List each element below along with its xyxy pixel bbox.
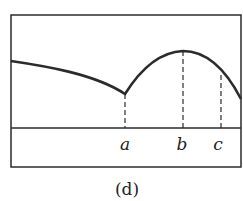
- label-a: a: [120, 134, 130, 154]
- label-b: b: [177, 134, 188, 154]
- diagram-figure: a b c (d): [0, 0, 243, 201]
- label-c: c: [213, 134, 223, 154]
- marker-lines: [125, 51, 221, 128]
- figure-caption: (d): [115, 179, 139, 199]
- curve: [11, 51, 241, 99]
